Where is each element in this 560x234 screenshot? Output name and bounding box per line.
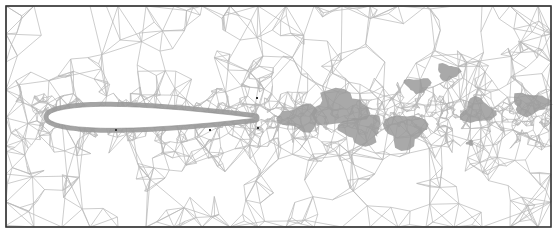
mesh-figure: [0, 0, 560, 234]
airfoil-mesh-plot: [0, 0, 560, 234]
